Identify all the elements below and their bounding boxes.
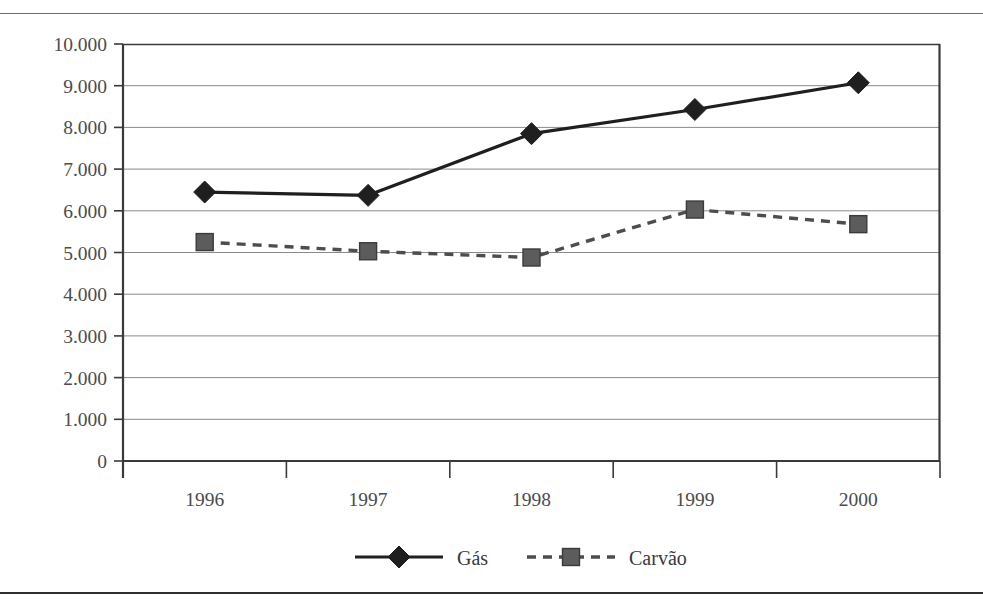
y-tick-label: 1.000	[63, 409, 107, 430]
legend-label: Gás	[457, 547, 488, 569]
y-tick-marks-group	[114, 44, 123, 461]
chart-legend: GásCarvão	[355, 546, 687, 569]
y-tick-label: 8.000	[63, 117, 107, 138]
y-tick-label: 6.000	[63, 201, 107, 222]
square-marker	[196, 234, 213, 251]
x-tick-label: 1999	[675, 489, 714, 510]
diamond-marker	[684, 98, 706, 120]
x-tick-label: 1996	[185, 489, 224, 510]
square-marker	[686, 201, 703, 218]
x-tick-label: 1998	[512, 489, 551, 510]
y-tick-label: 0	[97, 451, 107, 472]
y-tick-label: 5.000	[63, 243, 107, 264]
diamond-marker	[357, 184, 379, 206]
square-marker	[563, 549, 580, 566]
diamond-marker	[194, 181, 216, 203]
diamond-marker	[388, 546, 410, 568]
y-tick-label: 4.000	[63, 284, 107, 305]
figure-container: 01.0002.0003.0004.0005.0006.0007.0008.00…	[0, 0, 983, 607]
y-tick-label: 9.000	[63, 76, 107, 97]
x-tick-marks-group	[123, 461, 940, 478]
diamond-marker	[847, 72, 869, 94]
x-tick-labels-group: 19961997199819992000	[185, 489, 878, 510]
y-tick-label: 2.000	[63, 368, 107, 389]
series-gas	[194, 72, 870, 207]
legend-label: Carvão	[629, 547, 687, 569]
legend-item-gas[interactable]: Gás	[355, 546, 488, 569]
y-tick-labels-group: 01.0002.0003.0004.0005.0006.0007.0008.00…	[53, 34, 107, 472]
x-tick-label: 1997	[349, 489, 388, 510]
y-tick-label: 3.000	[63, 326, 107, 347]
y-tick-label: 10.000	[53, 34, 107, 55]
line-chart: 01.0002.0003.0004.0005.0006.0007.0008.00…	[0, 0, 983, 607]
square-marker	[523, 249, 540, 266]
diamond-marker	[521, 123, 543, 145]
x-tick-label: 2000	[839, 489, 878, 510]
square-marker	[360, 243, 377, 260]
legend-item-carvao[interactable]: Carvão	[527, 547, 687, 569]
square-marker	[850, 216, 867, 233]
y-tick-label: 7.000	[63, 159, 107, 180]
